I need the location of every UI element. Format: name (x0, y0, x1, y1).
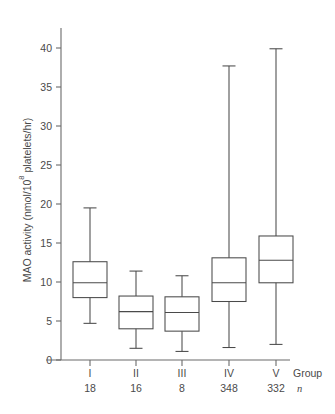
y-axis: 0510152025303540 (40, 28, 61, 366)
y-axis-title-text: MAO activity (nmol/108 platelets/hr) (17, 118, 34, 283)
box-series (73, 49, 293, 352)
boxplot-figure: 0510152025303540 I18II16III8IV348V332Gro… (0, 0, 335, 414)
x-axis-row-header-group: Group (293, 367, 322, 379)
box-plot-IV (212, 66, 246, 348)
category-labels: I18II16III8IV348V332Groupn (84, 367, 322, 394)
y-tick-label: 30 (40, 120, 52, 132)
box-plot-I (73, 208, 107, 323)
boxplot-chart: 0510152025303540 I18II16III8IV348V332Gro… (0, 0, 335, 414)
x-axis-row-header-n: n (297, 383, 302, 394)
x-sample-size-label: 8 (179, 382, 185, 394)
x-sample-size-label: 16 (130, 382, 142, 394)
box-iqr (212, 258, 246, 302)
box-iqr (73, 262, 107, 298)
y-tick-label: 20 (40, 198, 52, 210)
y-axis-title: MAO activity (nmol/108 platelets/hr) (17, 118, 34, 283)
box-plot-III (165, 276, 199, 352)
x-sample-size-label: 332 (267, 382, 285, 394)
x-sample-size-label: 18 (84, 382, 96, 394)
y-tick-label: 40 (40, 42, 52, 54)
box-plot-V (259, 49, 293, 345)
box-iqr (119, 296, 153, 329)
box-iqr (259, 236, 293, 283)
y-tick-label: 25 (40, 159, 52, 171)
x-sample-size-label: 348 (220, 382, 238, 394)
x-category-label: V (272, 367, 279, 379)
y-tick-label: 15 (40, 237, 52, 249)
x-category-label: I (89, 367, 92, 379)
x-category-label: II (133, 367, 139, 379)
y-tick-label: 35 (40, 81, 52, 93)
x-category-label: IV (224, 367, 234, 379)
x-axis (46, 360, 290, 366)
box-plot-II (119, 271, 153, 348)
x-category-label: III (178, 367, 187, 379)
y-tick-label: 5 (46, 315, 52, 327)
y-tick-label: 10 (40, 276, 52, 288)
box-iqr (165, 297, 199, 331)
